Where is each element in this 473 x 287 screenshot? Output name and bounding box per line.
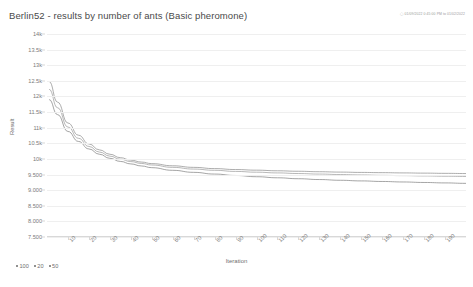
x-axis-tick-mark bbox=[152, 237, 153, 240]
x-axis-tick-mark bbox=[236, 237, 237, 240]
x-axis-tick-mark bbox=[361, 237, 362, 240]
y-axis-tick-label: 10k bbox=[33, 156, 42, 162]
y-axis-tick-label: 13k bbox=[33, 62, 42, 68]
y-axis-tick-mark bbox=[42, 49, 45, 50]
gridline bbox=[47, 65, 466, 66]
gridline bbox=[47, 50, 466, 51]
y-axis-labels: 7.5008.0008.5009.0009.50010k10.5k11k11.5… bbox=[0, 34, 45, 237]
y-axis-tick-label: 11.5k bbox=[29, 109, 42, 115]
clock-icon: ◯ bbox=[400, 13, 403, 16]
x-axis-tick-mark bbox=[215, 237, 216, 240]
chart-title: Berlin52 - results by number of ants (Ba… bbox=[9, 10, 247, 21]
legend-marker-icon bbox=[49, 265, 51, 267]
y-axis-tick-label: 9.500 bbox=[28, 172, 42, 178]
x-axis-tick-mark bbox=[194, 237, 195, 240]
y-axis-tick-label: 10.5k bbox=[28, 140, 42, 146]
x-axis-tick-mark bbox=[319, 237, 320, 240]
gridline bbox=[47, 206, 466, 207]
gridline bbox=[47, 159, 466, 160]
gridline bbox=[47, 143, 466, 144]
legend-item[interactable]: 100 bbox=[16, 263, 29, 269]
y-axis-tick-mark bbox=[42, 205, 45, 206]
x-axis-tick-mark bbox=[110, 237, 111, 240]
x-axis-tick-mark bbox=[131, 237, 132, 240]
y-axis-tick-mark bbox=[42, 221, 45, 222]
y-axis-tick-mark bbox=[42, 127, 45, 128]
plot-area bbox=[47, 34, 466, 237]
y-axis-tick-label: 9.000 bbox=[28, 187, 42, 193]
x-axis-tick-mark bbox=[424, 237, 425, 240]
x-axis-title: Iteration bbox=[0, 258, 473, 264]
legend-label: 100 bbox=[20, 263, 29, 269]
x-axis-tick-mark bbox=[340, 237, 341, 240]
gridline bbox=[47, 175, 466, 176]
timestamp-label: ◯01/09/2022 0:45:00 PM to 01/02/2022 bbox=[400, 12, 465, 16]
chart-container: Berlin52 - results by number of ants (Ba… bbox=[0, 0, 473, 287]
series-line bbox=[49, 89, 466, 176]
y-axis-tick-label: 11k bbox=[33, 125, 42, 131]
gridline bbox=[47, 128, 466, 129]
x-axis-tick-mark bbox=[445, 237, 446, 240]
timestamp-text: 01/09/2022 0:45:00 PM to 01/02/2022 bbox=[405, 12, 465, 16]
legend-label: 50 bbox=[52, 263, 58, 269]
x-axis-tick-mark bbox=[68, 237, 69, 240]
x-axis-tick-mark bbox=[382, 237, 383, 240]
x-axis-tick-mark bbox=[89, 237, 90, 240]
y-axis-tick-mark bbox=[42, 190, 45, 191]
y-axis-tick-label: 8.500 bbox=[28, 203, 42, 209]
legend-marker-icon bbox=[16, 265, 18, 267]
y-axis-tick-label: 14k bbox=[33, 31, 42, 37]
legend-item[interactable]: 50 bbox=[49, 263, 59, 269]
y-axis-tick-mark bbox=[42, 65, 45, 66]
gridline bbox=[47, 221, 466, 222]
y-axis-tick-mark bbox=[42, 174, 45, 175]
chart-legend: 1002050 bbox=[16, 263, 58, 269]
y-axis-tick-label: 12k bbox=[33, 93, 42, 99]
gridline bbox=[47, 190, 466, 191]
y-axis-tick-mark bbox=[42, 80, 45, 81]
y-axis-tick-mark bbox=[42, 34, 45, 35]
legend-label: 20 bbox=[37, 263, 43, 269]
y-axis-tick-mark bbox=[42, 143, 45, 144]
y-axis-tick-mark bbox=[42, 237, 45, 238]
y-axis-tick-mark bbox=[42, 158, 45, 159]
x-axis-tick-mark bbox=[298, 237, 299, 240]
gridline bbox=[47, 112, 466, 113]
y-axis-tick-mark bbox=[42, 112, 45, 113]
x-axis-tick-mark bbox=[277, 237, 278, 240]
legend-item[interactable]: 20 bbox=[34, 263, 44, 269]
gridline bbox=[47, 96, 466, 97]
y-axis-tick-label: 13.5k bbox=[28, 47, 42, 53]
x-axis-tick-mark bbox=[403, 237, 404, 240]
y-axis-tick-mark bbox=[42, 96, 45, 97]
legend-marker-icon bbox=[34, 265, 36, 267]
y-axis-tick-label: 12.5k bbox=[28, 78, 42, 84]
y-axis-tick-label: 8.000 bbox=[28, 218, 42, 224]
gridline bbox=[47, 81, 466, 82]
x-axis-tick-mark bbox=[173, 237, 174, 240]
x-axis-tick-mark bbox=[257, 237, 258, 240]
gridline bbox=[47, 34, 466, 35]
